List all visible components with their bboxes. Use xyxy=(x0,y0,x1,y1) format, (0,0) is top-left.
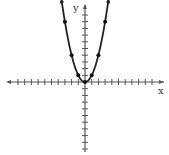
parabola-graph: y x xyxy=(0,0,169,155)
y-axis-arrow-icon xyxy=(83,4,87,9)
data-point xyxy=(90,73,94,77)
x-axis-label: x xyxy=(158,85,164,96)
data-point xyxy=(96,53,100,57)
y-axis-label: y xyxy=(72,2,79,13)
data-point xyxy=(103,20,107,24)
curve-left-arrow-icon xyxy=(60,0,64,4)
data-point xyxy=(83,80,87,84)
axes xyxy=(6,4,164,152)
x-axis-left-arrow-icon xyxy=(6,80,11,84)
x-axis-arrow-icon xyxy=(159,80,164,84)
data-point xyxy=(70,53,74,57)
data-point xyxy=(76,73,80,77)
curve-right-arrow-icon xyxy=(106,0,110,4)
data-point xyxy=(63,20,67,24)
